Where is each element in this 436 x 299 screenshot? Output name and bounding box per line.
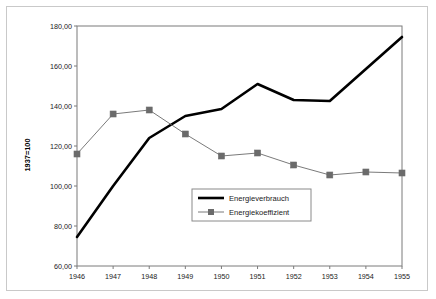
legend-square-marker (208, 209, 214, 215)
data-point-marker (146, 107, 152, 113)
y-axis-tick-label: 120,00 (50, 142, 72, 151)
y-axis-tick-label: 60,00 (54, 262, 72, 271)
data-point-marker (218, 153, 224, 159)
x-axis-tick-label: 1951 (250, 272, 266, 281)
legend-item-label[interactable]: Energiekoeffizient (229, 208, 290, 217)
x-axis-tick-label: 1948 (141, 272, 157, 281)
series-line (77, 110, 402, 175)
y-axis-tick-label: 180,00 (50, 22, 72, 31)
chart-outer-frame: 60,0080,00100,00120,00140,00160,00180,00… (6, 6, 428, 291)
x-axis-tick-label: 1953 (322, 272, 338, 281)
y-axis-tick-label: 80,00 (54, 222, 72, 231)
x-axis-tick-label: 1950 (213, 272, 229, 281)
y-axis-tick-label: 100,00 (50, 182, 72, 191)
x-axis-tick-label: 1947 (105, 272, 121, 281)
x-axis-tick-label: 1949 (177, 272, 193, 281)
x-axis-tick-label: 1955 (394, 272, 410, 281)
data-point-marker (110, 111, 116, 117)
data-point-marker (291, 162, 297, 168)
x-axis-tick-label: 1954 (358, 272, 374, 281)
y-axis-title: 1937=100 (23, 138, 32, 171)
x-axis-tick-label: 1946 (69, 272, 85, 281)
legend-item-label[interactable]: Energieverbrauch (229, 194, 289, 203)
y-axis-tick-label: 140,00 (50, 102, 72, 111)
series-2 (74, 107, 405, 178)
data-point-marker (182, 131, 188, 137)
data-point-marker (327, 172, 333, 178)
chart-legend[interactable]: EnergieverbrauchEnergiekoeffizient (192, 189, 311, 221)
chart-canvas: 60,0080,00100,00120,00140,00160,00180,00… (7, 7, 429, 292)
plot-area-border (77, 26, 402, 266)
y-axis-tick-label: 160,00 (50, 62, 72, 71)
x-axis-tick-labels: 1946194719481949195019511952195319541955 (69, 272, 410, 281)
data-point-marker (399, 170, 405, 176)
data-point-marker (255, 150, 261, 156)
data-point-marker (363, 169, 369, 175)
x-axis-tick-label: 1952 (286, 272, 302, 281)
line-chart: 60,0080,00100,00120,00140,00160,00180,00… (7, 7, 429, 292)
data-point-marker (74, 151, 80, 157)
y-axis-tick-labels: 60,0080,00100,00120,00140,00160,00180,00 (50, 22, 72, 271)
